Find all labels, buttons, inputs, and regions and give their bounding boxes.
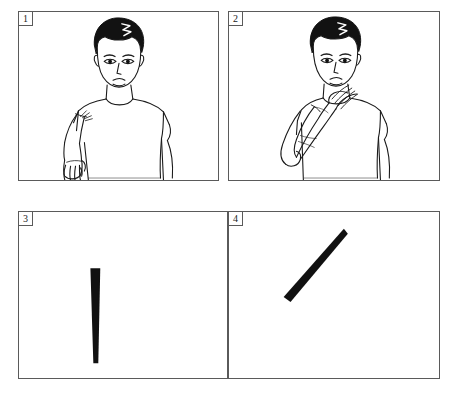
panel-number-3: 3 (18, 211, 33, 226)
tapered-bar-shape (90, 268, 100, 363)
tapered-bar-shape (284, 229, 348, 302)
vertical-tapered-bar (19, 212, 227, 378)
panel-4: 4 (228, 211, 440, 379)
panel-number-1: 1 (18, 11, 33, 26)
diagonal-tapered-bar (229, 212, 439, 378)
illustration-man-saluting (229, 12, 439, 180)
panel-number-2: 2 (228, 11, 243, 26)
panel-3: 3 (18, 211, 228, 379)
panel-number-4: 4 (228, 211, 243, 226)
illustration-man-arm-extended (19, 12, 218, 180)
panel-1: 1 (18, 11, 219, 181)
figure-sheet: 1 (0, 0, 454, 393)
panel-2: 2 (228, 11, 440, 181)
